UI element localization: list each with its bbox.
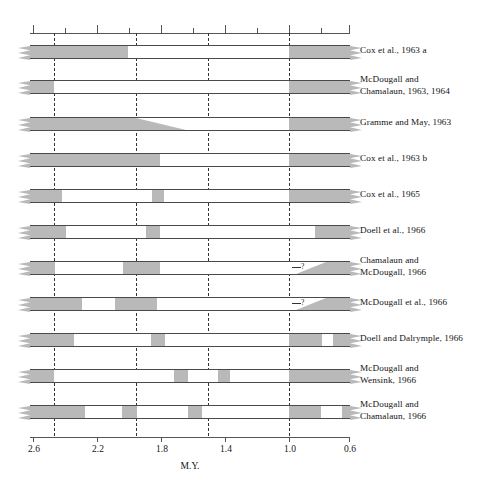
polarity-band: [30, 153, 350, 167]
normal-interval: [30, 262, 55, 274]
normal-interval: [289, 118, 350, 130]
normal-interval: [30, 46, 128, 58]
normal-interval: [30, 370, 54, 382]
normal-interval: [152, 190, 164, 202]
polarity-band: [30, 369, 350, 383]
top-tick-1.6: [193, 28, 194, 33]
polarity-band: [30, 45, 350, 59]
normal-interval: [218, 370, 230, 382]
axis-tick-label-1.4: 1.4: [209, 444, 243, 454]
normal-interval: [30, 406, 85, 418]
row-label: Cox et al., 1965: [360, 189, 420, 201]
normal-interval: [326, 262, 350, 274]
normal-interval: [30, 118, 136, 130]
ragged-left-end: [18, 262, 30, 276]
row-label: Cox et al., 1963 a: [360, 45, 427, 57]
normal-interval: [188, 406, 202, 418]
polarity-band: [30, 117, 350, 131]
normal-interval: [289, 154, 350, 166]
polarity-band: [30, 189, 350, 203]
normal-interval: [289, 81, 350, 93]
bottom-tick-1.8: [161, 437, 162, 442]
bottom-tick-0.6: [349, 437, 350, 442]
top-tick-1.4: [225, 25, 226, 33]
row-label: Chamalaun and McDougall, 1966: [360, 255, 426, 278]
polarity-timescale-figure: Cox et al., 1963 a McDougall and Chamala…: [0, 0, 501, 478]
normal-interval: [123, 262, 160, 274]
ragged-left-end: [18, 406, 30, 420]
normal-interval: [30, 298, 82, 310]
polarity-band: [30, 333, 350, 347]
normal-interval: [151, 334, 165, 346]
ragged-left-end: [18, 154, 30, 168]
row-label: McDougall and Wensink, 1966: [360, 363, 419, 386]
normal-interval: [289, 46, 350, 58]
row-label: Doell et al., 1966: [360, 225, 425, 237]
top-tick-1.2: [257, 28, 258, 33]
bottom-tick-2.2: [97, 437, 98, 442]
normal-interval: [326, 298, 350, 310]
ragged-left-end: [18, 334, 30, 348]
normal-interval: [30, 334, 74, 346]
normal-interval: [289, 190, 350, 202]
top-tick-1.0: [289, 25, 290, 33]
polarity-band: ?: [30, 297, 350, 311]
ragged-left-end: [18, 298, 30, 312]
row-label: Gramme and May, 1963: [360, 117, 451, 129]
top-tick-2.2: [97, 25, 98, 33]
normal-interval: [115, 298, 157, 310]
normal-interval: [174, 370, 188, 382]
polarity-band: [30, 405, 350, 419]
axis-tick-label-1.8: 1.8: [145, 444, 179, 454]
polarity-band: ?: [30, 261, 350, 275]
bottom-tick-2.6: [33, 437, 34, 442]
bottom-tick-1.4: [225, 437, 226, 442]
normal-interval: [289, 334, 322, 346]
top-tick-2.4: [65, 28, 66, 33]
question-mark-annotation: ?: [301, 262, 304, 271]
row-label: Cox et al., 1963 b: [360, 153, 427, 165]
top-tick-2.6: [33, 25, 34, 33]
normal-interval: [30, 81, 54, 93]
axis-tick-label-1.0: 1.0: [273, 444, 307, 454]
row-label: Doell and Dalrymple, 1966: [360, 333, 463, 345]
axis-tick-label-0.6: 0.6: [333, 444, 367, 454]
top-tick-0.6: [349, 25, 350, 33]
uncertainty-arrow: [292, 303, 301, 304]
ragged-left-end: [18, 370, 30, 384]
row-label: McDougall and Chamalaun, 1966: [360, 399, 426, 422]
polarity-band: [30, 80, 350, 94]
normal-interval: [122, 406, 137, 418]
axis-tick-label-2.6: 2.6: [17, 444, 51, 454]
normal-interval: [289, 370, 350, 382]
axis-title: M.Y.: [160, 461, 220, 471]
ragged-left-end: [18, 118, 30, 132]
question-mark-annotation: ?: [301, 298, 304, 307]
ragged-left-end: [18, 226, 30, 240]
ragged-left-end: [18, 46, 30, 60]
bottom-tick-1.0: [289, 437, 290, 442]
normal-interval: [342, 406, 350, 418]
top-tick-2.0: [129, 28, 130, 33]
normal-interval: [289, 406, 321, 418]
top-tick-1.8: [161, 25, 162, 33]
bottom-axis-line: [30, 437, 350, 438]
polarity-band: [30, 225, 350, 239]
row-label: McDougall et al., 1966: [360, 297, 447, 309]
normal-interval: [146, 226, 160, 238]
ragged-left-end: [18, 190, 30, 204]
row-label: McDougall and Chamalaun, 1963, 1964: [360, 74, 450, 97]
normal-interval: [30, 190, 62, 202]
ragged-left-end: [18, 81, 30, 95]
tapered-normal-interval: [136, 118, 186, 130]
normal-interval: [30, 226, 66, 238]
top-tick-0.8: [321, 28, 322, 33]
normal-interval: [315, 226, 350, 238]
top-axis-line: [30, 33, 350, 34]
axis-tick-label-2.2: 2.2: [81, 444, 115, 454]
normal-interval: [333, 334, 350, 346]
normal-interval: [30, 154, 160, 166]
uncertainty-arrow: [292, 267, 301, 268]
